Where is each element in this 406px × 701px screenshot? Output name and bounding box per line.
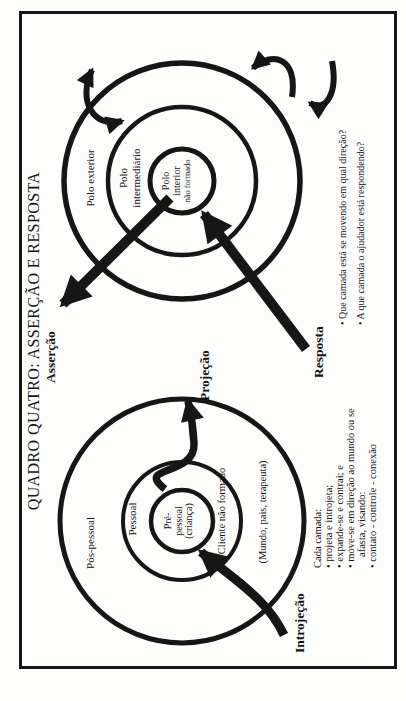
question-line: • Que camada está se movendo em qual dir… xyxy=(334,85,352,325)
left-inner-circle-label: Pré- pessoal (criança) xyxy=(163,471,195,571)
curved-arrow-double xyxy=(86,70,122,122)
notes-heading: Cada camada: xyxy=(312,393,323,568)
introjecao-arrow xyxy=(201,552,284,635)
resposta-label: Resposta xyxy=(311,326,327,378)
right-inner-circle-label: Polo interior não formado xyxy=(161,131,193,231)
resposta-arrow xyxy=(204,214,306,349)
assercao-label: Asserção xyxy=(43,331,59,383)
right-outer-ring-label: Polo exterior xyxy=(84,128,97,228)
figure-rotated-content: QUADRO QUATRO: ASSERÇÃO E RESPOSTA Asser… xyxy=(0,0,406,701)
left-middle-ring-label: Pessoal xyxy=(126,469,139,569)
left-outer-note: (Mundo, pais, terapeuta) xyxy=(257,412,268,612)
scanned-page: QUADRO QUATRO: ASSERÇÃO E RESPOSTA Asser… xyxy=(0,0,406,701)
curved-arrow-lower-hook xyxy=(310,61,334,106)
notes-line: • expande-se e contrai; e xyxy=(334,393,345,568)
page-title: QUADRO QUATRO: ASSERÇÃO E RESPOSTA xyxy=(25,141,43,541)
left-middle-note: Cliente não formado xyxy=(216,436,227,586)
projecao-label: Projeção xyxy=(197,350,213,401)
response-questions-block: • Que camada está se movendo em qual dir… xyxy=(334,85,369,325)
introjecao-label: Introjeção xyxy=(292,593,308,653)
right-middle-ring-label: Polo intermediário xyxy=(117,128,143,228)
notes-line: afasta, visando: xyxy=(356,393,367,568)
notes-line: • contato - controle - conexão xyxy=(367,393,378,568)
question-line: • A que camada o ajudador está responden… xyxy=(352,85,370,325)
layer-notes-block: Cada camada: • projeta e introjeta; • ex… xyxy=(312,393,378,568)
notes-line: • projeta e introjeta; xyxy=(323,393,334,568)
left-outer-ring-label: Pós-pessoal xyxy=(84,493,97,593)
notes-line: • move-se em direção ao mundo ou se xyxy=(345,393,356,568)
